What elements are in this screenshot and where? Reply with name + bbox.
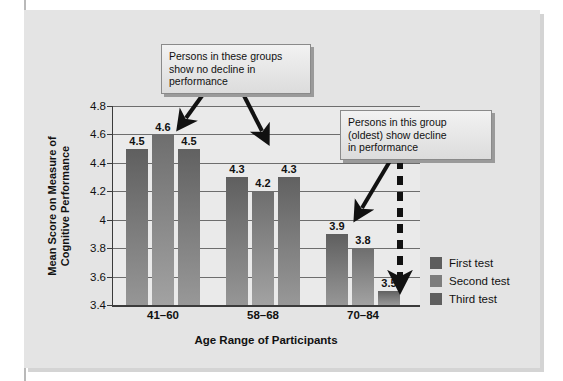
bar-body xyxy=(252,191,274,305)
bar-third-test-58-68 xyxy=(278,177,300,305)
legend-item-first-test: First test xyxy=(430,254,510,272)
y-tick-label: 3.6 xyxy=(90,271,106,283)
y-tick-label: 4.4 xyxy=(90,157,106,169)
legend-label: First test xyxy=(449,257,493,269)
data-label: 3.8 xyxy=(355,234,370,246)
figure-root: Mean Score on Measure of Cognitive Perfo… xyxy=(0,0,563,381)
x-axis-title: Age Range of Participants xyxy=(112,334,420,346)
legend-swatch-icon xyxy=(430,275,442,287)
y-axis-line xyxy=(112,106,113,306)
bar-body xyxy=(178,149,200,305)
bar-body xyxy=(126,149,148,305)
y-axis-title-line2: Cognitive Performance xyxy=(59,106,72,306)
data-label: 4.6 xyxy=(155,121,170,133)
bar-body xyxy=(326,234,348,305)
y-tick-label: 4.8 xyxy=(90,100,106,112)
bar-body xyxy=(226,177,248,305)
data-label: 4.5 xyxy=(181,135,196,147)
callout-line3: performance xyxy=(169,75,303,88)
callout-line3: in performance xyxy=(348,141,484,154)
y-tick-label: 3.4 xyxy=(90,299,106,311)
annotation-callout-decline: Persons in this group (oldest) show decl… xyxy=(340,110,492,160)
y-tick-label: 4 xyxy=(100,214,106,226)
x-tick-label: 58–68 xyxy=(247,309,279,321)
callout-line1: Persons in these groups xyxy=(169,50,303,63)
y-axis-title-line1: Mean Score on Measure of xyxy=(46,106,59,306)
annotation-callout-no-decline: Persons in these groups show no decline … xyxy=(161,44,311,94)
legend-swatch-icon xyxy=(430,293,442,305)
bar-second-test-41-60 xyxy=(152,134,174,305)
y-tick-label: 4.2 xyxy=(90,185,106,197)
callout-line2: (oldest) show decline xyxy=(348,129,484,142)
bar-first-test-41-60 xyxy=(126,149,148,305)
bar-second-test-70-84 xyxy=(352,248,374,305)
y-axis-tick-labels: 3.4 3.6 3.8 4 4.2 4.4 4.6 4.8 xyxy=(78,106,106,305)
data-label: 4.3 xyxy=(281,163,296,175)
bar-third-test-41-60 xyxy=(178,149,200,305)
legend-label: Second test xyxy=(449,275,510,287)
legend-label: Third test xyxy=(449,293,497,305)
bar-second-test-58-68 xyxy=(252,191,274,305)
data-label: 3.9 xyxy=(329,220,344,232)
data-label: 4.3 xyxy=(229,163,244,175)
callout-line1: Persons in this group xyxy=(348,116,484,129)
legend-swatch-icon xyxy=(430,257,442,269)
x-tick-label: 41–60 xyxy=(147,309,179,321)
y-tick-label: 4.6 xyxy=(90,128,106,140)
x-axis-tick-labels: 41–60 58–68 70–84 xyxy=(112,309,420,325)
legend-item-second-test: Second test xyxy=(430,272,510,290)
bar-body xyxy=(152,134,174,305)
callout-line2: show no decline in xyxy=(169,63,303,76)
bar-first-test-70-84 xyxy=(326,234,348,305)
bar-body xyxy=(378,291,400,305)
y-axis-title: Mean Score on Measure of Cognitive Perfo… xyxy=(46,106,72,306)
bar-body xyxy=(278,177,300,305)
data-label: 3.5 xyxy=(381,277,396,289)
y-tick-label: 3.8 xyxy=(90,242,106,254)
x-axis-line xyxy=(112,305,420,307)
legend-item-third-test: Third test xyxy=(430,290,510,308)
legend: First test Second test Third test xyxy=(430,254,510,308)
x-tick-label: 70–84 xyxy=(347,309,379,321)
bar-first-test-58-68 xyxy=(226,177,248,305)
data-label: 4.2 xyxy=(255,177,270,189)
bar-body xyxy=(352,248,374,305)
bar-third-test-70-84 xyxy=(378,291,400,305)
data-label: 4.5 xyxy=(129,135,144,147)
gridline xyxy=(112,106,420,107)
